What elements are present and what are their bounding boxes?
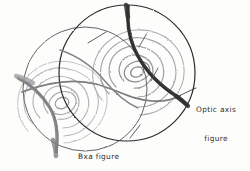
- optic-ring-6: [93, 30, 184, 115]
- secondary-isogyre-tail: [53, 140, 56, 156]
- upper-tick-icon: [88, 32, 106, 43]
- optic-ring-1: [129, 65, 144, 79]
- optic-axis-label-line2: figure: [196, 134, 236, 144]
- primary-isogyre-head: [126, 5, 128, 17]
- interference-figure-diagram: Optic axis figure Bxa figure: [0, 0, 250, 171]
- bxa-ring-6: [18, 61, 107, 143]
- optic-axis-label-line1: Optic axis: [196, 105, 236, 115]
- optic-axis-isochrome-spiral: [93, 30, 184, 115]
- optic-axis-figure-label: Optic axis figure: [196, 86, 236, 162]
- primary-isogyre-tail: [176, 96, 188, 106]
- bxa-figure-label: Bxa figure: [78, 152, 119, 162]
- bxa-isochrome-spiral: [18, 61, 107, 143]
- inner-tick-a-icon: [139, 33, 147, 47]
- bxa-ring-1: [53, 95, 70, 110]
- optic-axis-leader-line: [179, 88, 196, 96]
- leader-lines: [179, 88, 196, 96]
- bxa-ring-4: [33, 76, 89, 128]
- lower-tick-icon: [130, 125, 140, 138]
